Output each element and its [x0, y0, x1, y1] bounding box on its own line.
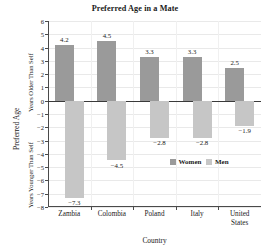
- bar-value-label: −2.8: [140, 139, 180, 146]
- y-tick-label: −6: [37, 177, 44, 184]
- category-separator: [91, 21, 92, 207]
- legend-swatch-women-icon: [170, 159, 176, 165]
- y-tick-label: −4: [37, 150, 44, 157]
- y-tick-mark: [45, 207, 48, 208]
- y-axis-title-lower: Years Younger Than Self: [27, 142, 34, 208]
- bar-value-label: −4.5: [97, 162, 137, 169]
- x-category-label-line: United: [214, 210, 266, 219]
- y-tick-label: 1: [41, 84, 44, 91]
- y-tick-mark: [45, 167, 48, 168]
- y-tick-mark: [45, 101, 48, 102]
- bar-men-united-states[interactable]: [235, 101, 254, 126]
- y-tick-mark: [45, 87, 48, 88]
- bar-value-label: 3.3: [172, 48, 212, 55]
- y-tick-label: 2: [41, 71, 44, 78]
- bar-value-label: −7.3: [54, 199, 94, 206]
- bar-men-italy[interactable]: [193, 101, 212, 138]
- bar-value-label: 4.2: [44, 36, 84, 43]
- bar-value-label: −2.8: [182, 139, 222, 146]
- bar-women-italy[interactable]: [183, 57, 202, 101]
- legend-item-women[interactable]: Women: [170, 158, 201, 166]
- plot-area: 6543210−1−2−3−4−5−6−7−8 4.24.53.33.32.5−…: [48, 21, 261, 207]
- legend-swatch-men-icon: [206, 159, 212, 165]
- x-axis-line: [48, 206, 261, 207]
- chart-figure: Preferred Age in a Mate Preferred Age Ye…: [0, 0, 270, 252]
- chart-title: Preferred Age in a Mate: [0, 4, 270, 13]
- legend-item-men[interactable]: Men: [206, 158, 228, 166]
- x-category-label: UnitedStates: [214, 210, 266, 227]
- y-tick-label: −1: [37, 111, 44, 118]
- legend-label-women: Women: [179, 158, 202, 166]
- bar-women-united-states[interactable]: [225, 68, 244, 101]
- gridline: [48, 207, 261, 208]
- y-axis-line: [48, 21, 49, 207]
- y-tick-mark: [45, 141, 48, 142]
- y-tick-mark: [45, 21, 48, 22]
- bar-men-poland[interactable]: [150, 101, 169, 138]
- y-tick-label: −5: [37, 164, 44, 171]
- x-axis-category-labels: ZambiaColombiaPolandItalyUnitedStates: [48, 210, 261, 236]
- y-tick-mark: [45, 61, 48, 62]
- y-tick-mark: [45, 48, 48, 49]
- y-tick-label: −3: [37, 137, 44, 144]
- bar-women-colombia[interactable]: [97, 41, 116, 101]
- y-tick-mark: [45, 74, 48, 75]
- bar-value-label: 2.5: [215, 59, 255, 66]
- y-tick-mark: [45, 194, 48, 195]
- x-axis-title: Country: [48, 236, 261, 245]
- y-tick-label: 6: [41, 18, 44, 25]
- y-tick-label: 3: [41, 57, 44, 64]
- x-category-label-line: States: [214, 219, 266, 228]
- bar-women-zambia[interactable]: [55, 45, 74, 101]
- bar-women-poland[interactable]: [140, 57, 159, 101]
- chart-legend: Women Men: [170, 158, 229, 166]
- y-tick-label: 4: [41, 44, 44, 51]
- y-tick-label: −7: [37, 190, 44, 197]
- bar-men-colombia[interactable]: [107, 101, 126, 161]
- gridline: [48, 21, 261, 22]
- category-separator: [218, 21, 219, 207]
- y-tick-mark: [45, 114, 48, 115]
- bar-value-label: 4.5: [87, 32, 127, 39]
- y-tick-label: 0: [41, 97, 44, 104]
- y-axis-title-upper: Years Older Than Self: [27, 53, 34, 112]
- y-tick-mark: [45, 180, 48, 181]
- bar-men-zambia[interactable]: [65, 101, 84, 198]
- y-tick-label: −2: [37, 124, 44, 131]
- y-axis-title: Preferred Age: [12, 108, 21, 150]
- y-tick-mark: [45, 127, 48, 128]
- legend-label-men: Men: [215, 158, 229, 166]
- y-tick-mark: [45, 154, 48, 155]
- bar-value-label: 3.3: [130, 48, 170, 55]
- bar-value-label: −1.9: [225, 127, 265, 134]
